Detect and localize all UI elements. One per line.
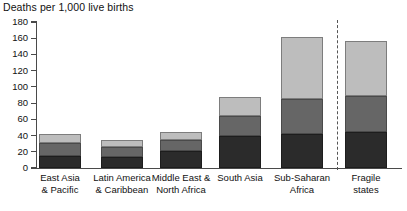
y-axis-tick-mark [31,54,37,55]
y-axis-tick-mark [31,103,37,104]
y-axis-line [36,21,37,169]
bar-segment-segment-middle [219,116,261,135]
category-label-line: Fragile [326,172,406,184]
y-axis-tick-label: 100 [2,82,28,92]
y-axis-tick-mark [31,86,37,87]
bar-5 [281,37,323,168]
bar-segment-segment-middle [160,140,202,151]
y-axis-tick-mark [31,70,37,71]
y-axis-tick-label: 40 [2,131,28,141]
bar-segment-segment-middle [345,96,387,133]
bar-segment-segment-bottom [281,134,323,168]
y-axis-tick-mark [31,135,37,136]
bar-4 [219,97,261,168]
bar-2 [101,140,143,168]
bar-segment-segment-top [219,97,261,116]
bar-segment-segment-bottom [101,157,143,168]
y-axis-tick-mark [31,151,37,152]
y-axis-tick-mark [31,119,37,120]
y-axis-tick-label: 120 [2,66,28,76]
bar-segment-segment-bottom [345,132,387,168]
category-label-6: Fragilestates [326,172,406,195]
y-axis-tick-label: 60 [2,114,28,124]
bar-segment-segment-top [101,140,143,146]
bar-segment-segment-top [345,41,387,95]
bar-segment-segment-top [281,37,323,99]
bar-segment-segment-middle [39,143,81,156]
category-label-line: states [326,184,406,196]
y-axis-tick-label: 80 [2,98,28,108]
y-axis-tick-label: 20 [2,147,28,157]
bar-segment-segment-middle [281,99,323,134]
y-axis-tick-label: 180 [2,17,28,27]
y-axis-tick-mark [31,167,37,168]
bar-6 [345,41,387,168]
y-axis-tick-mark [31,21,37,22]
bar-segment-segment-bottom [160,151,202,168]
bar-segment-segment-middle [101,147,143,157]
bar-3 [160,132,202,168]
bar-segment-segment-bottom [219,136,261,168]
category-label-line: North Africa [141,184,221,196]
stacked-bar-chart: Deaths per 1,000 live births 18016014012… [0,0,407,211]
y-axis-tick-mark [31,38,37,39]
chart-title: Deaths per 1,000 live births [3,1,134,13]
bar-segment-segment-top [39,134,81,143]
group-divider-dashed-line [337,20,338,170]
bar-segment-segment-bottom [39,156,81,168]
bar-segment-segment-top [160,132,202,140]
y-axis-tick-label: 140 [2,49,28,59]
y-axis-tick-label: 160 [2,33,28,43]
bar-1 [39,134,81,168]
